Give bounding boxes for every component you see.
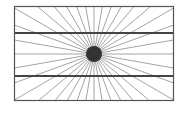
radiating-line xyxy=(94,54,183,116)
radiating-line xyxy=(94,54,162,116)
radiating-line xyxy=(26,54,94,116)
radiating-line xyxy=(59,0,94,54)
hering-illusion-figure xyxy=(0,0,183,116)
center-dot xyxy=(86,46,102,62)
radiating-line xyxy=(94,0,129,54)
radiating-line xyxy=(94,54,183,116)
radiating-line xyxy=(94,54,183,116)
radiating-line xyxy=(94,54,183,116)
radiating-line xyxy=(94,54,183,116)
